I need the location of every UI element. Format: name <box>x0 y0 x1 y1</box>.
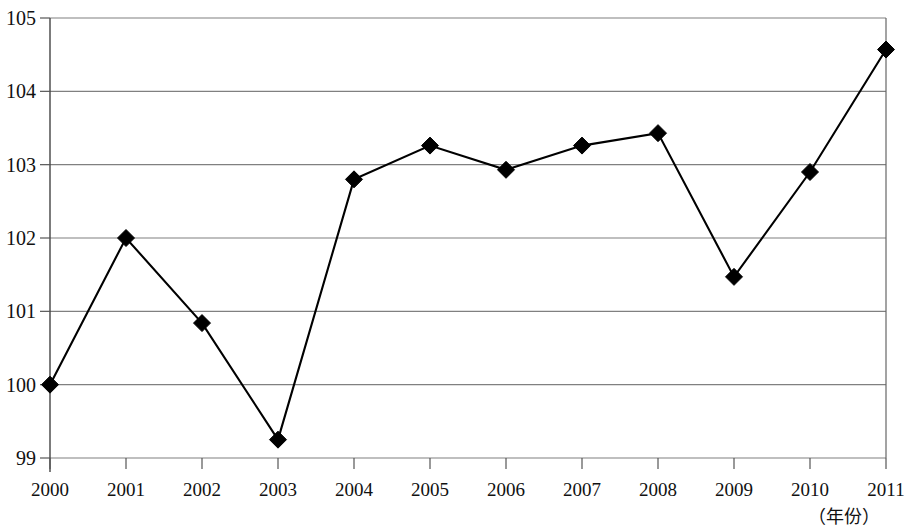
data-point-2011 <box>878 41 895 58</box>
y-axis-label-104: 104 <box>6 81 36 101</box>
data-point-2004 <box>346 171 363 188</box>
y-axis-label-101: 101 <box>6 301 36 321</box>
x-axis-label-2007: 2007 <box>542 480 622 499</box>
series-line <box>50 50 886 440</box>
x-axis-label-2006: 2006 <box>466 480 546 499</box>
data-point-2007 <box>574 137 591 154</box>
x-axis-label-2001: 2001 <box>86 480 166 499</box>
x-axis-label-2010: 2010 <box>770 480 850 499</box>
data-point-2008 <box>650 125 667 142</box>
data-point-markers <box>42 41 895 448</box>
gridlines <box>50 18 886 458</box>
y-axis-label-102: 102 <box>6 228 36 248</box>
x-axis-label-2009: 2009 <box>694 480 774 499</box>
x-axis-label-2005: 2005 <box>390 480 470 499</box>
data-point-2003 <box>270 431 287 448</box>
y-axis-label-103: 103 <box>6 155 36 175</box>
x-axis-label-2011: 2011 <box>846 480 906 499</box>
x-axis-label-2002: 2002 <box>162 480 242 499</box>
y-axis-label-99: 99 <box>16 448 36 468</box>
x-axis-ticks <box>50 458 886 469</box>
data-point-2009 <box>726 268 743 285</box>
x-axis-title: （年份） <box>808 508 880 526</box>
data-point-2006 <box>498 161 515 178</box>
data-point-2005 <box>422 137 439 154</box>
x-axis-label-2003: 2003 <box>238 480 318 499</box>
data-point-2000 <box>42 376 59 393</box>
x-axis-label-2000: 2000 <box>10 480 90 499</box>
data-line-series <box>50 50 886 440</box>
data-point-2010 <box>802 164 819 181</box>
axis-lines <box>50 18 886 472</box>
y-axis-label-100: 100 <box>6 375 36 395</box>
x-axis-label-2008: 2008 <box>618 480 698 499</box>
y-axis-label-105: 105 <box>6 8 36 28</box>
x-axis-label-2004: 2004 <box>314 480 394 499</box>
